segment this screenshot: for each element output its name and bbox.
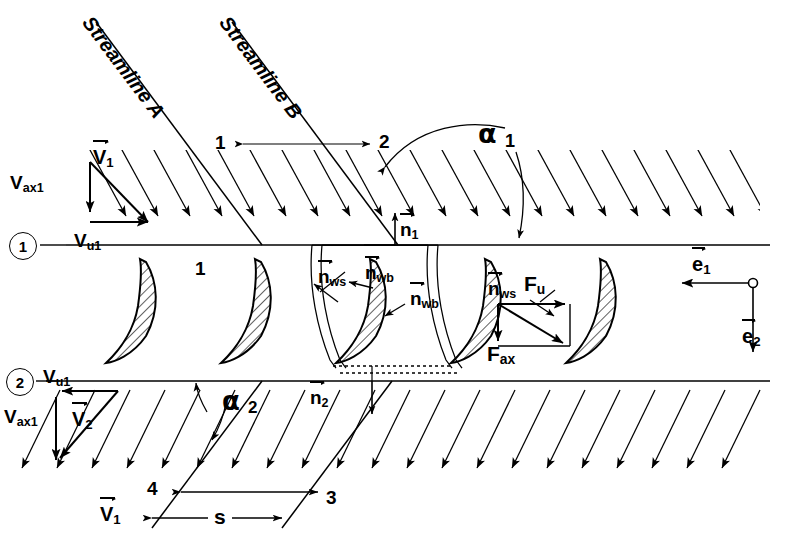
vax1-inlet-label: Vax1	[10, 172, 44, 195]
fax-sub: ax	[500, 351, 515, 367]
v2-outlet-sub: 2	[85, 417, 92, 432]
nws-right-leader	[530, 300, 554, 316]
nws-right-sub: ws	[500, 287, 517, 301]
inflow-arrow-field	[78, 128, 766, 216]
n2-sym: n	[310, 387, 322, 408]
nwb-right-label: nwb	[410, 288, 439, 311]
station-2-circle-label: 2	[16, 374, 24, 391]
fax-label: Fax	[487, 342, 515, 367]
vax1-outlet-sym: V	[4, 406, 17, 427]
e1-sub: 1	[703, 262, 710, 277]
pitch-s-label: s	[208, 505, 232, 529]
v1-outlet-label: V1	[100, 503, 121, 527]
alpha2-subscript: 2	[248, 398, 257, 418]
v1-inlet-sub: 1	[106, 155, 113, 170]
station-2-top-label: 2	[379, 131, 390, 153]
v2-outlet-label: V2	[72, 408, 93, 432]
nwb-right-sub: wb	[422, 297, 439, 311]
v1-outlet-sym: V	[100, 503, 113, 525]
blade-1	[106, 259, 156, 363]
vu1-outlet-label: Vu1	[43, 366, 70, 389]
alpha2-symbol: α	[222, 386, 240, 416]
nwb-right-leader	[385, 304, 405, 316]
nws-left-sym: n	[318, 266, 330, 287]
pitch-streamlines	[152, 381, 392, 528]
nwb-left-label: nwb	[365, 262, 394, 285]
fu-label: Fu	[524, 272, 545, 297]
blade-5	[566, 259, 616, 363]
v1-outlet-sub: 1	[113, 512, 120, 527]
n2-sub: 2	[322, 396, 329, 410]
figure-canvas: Streamline A Streamline B 1 2 α 1 V1 Vax…	[0, 0, 786, 543]
f-resultant-vector	[498, 304, 563, 343]
inlet-velocity-triangle	[90, 162, 148, 222]
vu1-inlet-sub: u1	[87, 239, 102, 253]
outflow-arrow-field	[22, 390, 760, 468]
vax1-inlet-sub: ax1	[23, 181, 44, 195]
nws-right-sym: n	[488, 278, 500, 299]
vu1-outlet-sym: V	[43, 366, 56, 387]
fax-sym: F	[487, 342, 500, 365]
n1-normal-arrow	[364, 213, 395, 245]
station-1-circle-label: 1	[19, 238, 27, 255]
vu1-inlet-label: Vu1	[74, 230, 101, 253]
e2-label: e2	[742, 325, 760, 349]
vu1-outlet-sub: u1	[56, 375, 71, 389]
blade-2	[221, 259, 271, 363]
e1-label: e1	[692, 253, 710, 277]
v1-inlet-sym: V	[93, 146, 106, 168]
n1-sub: 1	[412, 228, 419, 242]
v1-inlet-label: V1	[93, 146, 114, 170]
nwb-left-sym: n	[365, 262, 377, 283]
station-1-circle: 1	[9, 232, 37, 260]
station-2-circle: 2	[6, 368, 34, 396]
station-1-top-label: 1	[215, 132, 226, 154]
vax1-inlet-sym: V	[10, 172, 23, 193]
nwb-right-sym: n	[410, 288, 422, 309]
v1-vector-top	[90, 162, 148, 222]
unit-vector-origin	[749, 279, 758, 288]
e2-sym: e	[742, 325, 753, 347]
alpha1-subscript: 1	[505, 131, 515, 152]
n1-label: n1	[400, 219, 419, 242]
control-volume-bottom-dashed	[333, 366, 459, 373]
fu-sym: F	[524, 272, 537, 295]
n1-sym: n	[400, 219, 412, 240]
blade-row-label: 1	[195, 258, 206, 280]
v2-outlet-sym: V	[72, 408, 85, 430]
vax1-outlet-label: Vax1	[4, 406, 38, 429]
station-leaders	[36, 245, 66, 381]
n2-label: n2	[310, 387, 329, 410]
nwb-left-sub: wb	[377, 271, 394, 285]
station-4-label: 4	[147, 478, 158, 500]
force-triangle	[498, 304, 570, 346]
vu1-inlet-sym: V	[74, 230, 87, 251]
station-3-label: 3	[326, 487, 337, 509]
nws-left-sub: ws	[330, 275, 347, 289]
nws-right-label: nws	[488, 278, 516, 301]
alpha1-symbol: α	[478, 118, 497, 149]
fu-sub: u	[537, 281, 545, 297]
e1-sym: e	[692, 253, 703, 275]
e2-sub: 2	[753, 334, 760, 349]
nws-left-label: nws	[318, 266, 346, 289]
vax1-outlet-sub: ax1	[17, 415, 38, 429]
